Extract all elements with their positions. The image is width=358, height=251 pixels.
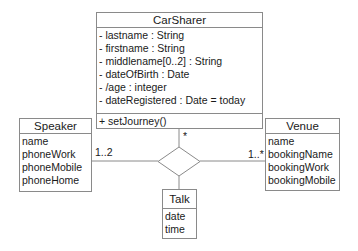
operation: + setJourney()	[99, 115, 260, 128]
attribute: date	[165, 210, 194, 223]
attribute: - dateOfBirth : Date	[99, 68, 260, 81]
attribute: - middlename[0..2] : String	[99, 55, 260, 68]
attribute: - firstname : String	[99, 42, 260, 55]
class-name: Venue	[266, 119, 339, 134]
attribute: phoneHome	[22, 174, 89, 187]
attribute: bookingWork	[268, 161, 337, 174]
attribute: name	[268, 135, 337, 148]
attribute: phoneWork	[22, 148, 89, 161]
operations-section: + setJourney()	[97, 114, 262, 129]
multiplicity-speaker: 1..2	[95, 146, 113, 158]
attribute: bookingMobile	[268, 174, 337, 187]
class-name: Speaker	[20, 119, 91, 134]
class-carsharer: CarSharer - lastname : String - firstnam…	[96, 12, 263, 129]
attribute: phoneMobile	[22, 161, 89, 174]
attribute: - /age : integer	[99, 81, 260, 94]
class-name: Talk	[163, 190, 196, 209]
multiplicity-venue: 1..*	[248, 148, 264, 160]
class-talk: Talk date time	[162, 189, 197, 239]
association-diamond	[158, 147, 200, 176]
multiplicity-carsharer: *	[183, 130, 187, 142]
attribute: bookingName	[268, 148, 337, 161]
attributes-section: - lastname : String - firstname : String…	[97, 28, 262, 114]
attribute: - lastname : String	[99, 29, 260, 42]
class-venue: Venue name bookingName bookingWork booki…	[265, 118, 340, 191]
class-name: CarSharer	[97, 13, 262, 28]
attribute: name	[22, 135, 89, 148]
class-speaker: Speaker name phoneWork phoneMobile phone…	[19, 118, 92, 192]
attribute: - dateRegistered : Date = today	[99, 94, 260, 107]
attributes-section: name phoneWork phoneMobile phoneHome	[20, 134, 91, 188]
attributes-section: date time	[163, 209, 196, 237]
attributes-section: name bookingName bookingWork bookingMobi…	[266, 134, 339, 188]
attribute: time	[165, 223, 194, 236]
